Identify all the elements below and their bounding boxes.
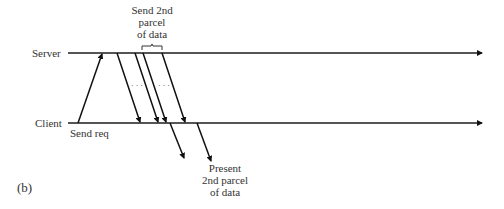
present-arrow-2 [197,123,211,161]
present-2nd-parcel-label: Present 2nd parcel of data [195,162,255,198]
present-arrow-1 [170,123,184,158]
send-2nd-parcel-label: Send 2nd parcel of data [124,4,180,40]
panel-label: (b) [17,181,32,195]
ellipsis-2: · · · [158,80,170,92]
brace [142,44,162,50]
server-label: Server [32,47,61,59]
request-arrow [78,54,102,123]
ellipsis-1: · · · [131,80,143,92]
send-req-label: Send req [70,127,109,139]
client-label: Client [35,117,62,129]
